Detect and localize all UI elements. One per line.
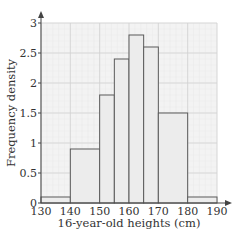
histogram-chart: 130140150160170180190 00.511.522.53 16-y… [0, 0, 239, 242]
y-tick-label: 2 [30, 77, 37, 90]
y-axis-label: Frequency density [4, 58, 18, 167]
y-tick-label: 0.5 [20, 167, 38, 180]
y-axis-arrow-icon [38, 11, 44, 18]
x-tick-label: 190 [207, 205, 228, 218]
histogram-bar [41, 197, 70, 203]
y-tick-labels: 00.511.522.53 [20, 17, 42, 210]
histogram-bar [144, 47, 159, 203]
histogram-bar [129, 35, 144, 203]
x-axis-label: 16-year-old heights (cm) [58, 216, 201, 230]
histogram-bar [70, 149, 99, 203]
y-tick-label: 2.5 [20, 47, 38, 60]
y-tick-label: 1 [30, 137, 37, 150]
y-tick-label: 1.5 [20, 107, 38, 120]
y-tick-label: 0 [30, 197, 37, 210]
y-tick-label: 3 [30, 17, 37, 30]
histogram-bar [158, 113, 187, 203]
histogram-bar [114, 59, 129, 203]
histogram-bar [100, 95, 115, 203]
histogram-bar [188, 197, 217, 203]
